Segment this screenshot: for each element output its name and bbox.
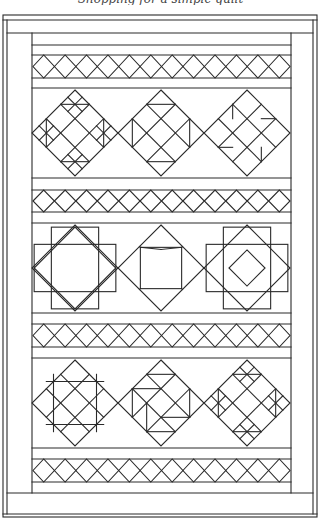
lattice-strip-4 [33,459,290,482]
lattice-diamond [97,324,118,347]
block-seam [34,227,116,309]
block-seam [223,227,270,309]
block-churn-dash [118,90,204,176]
lattice-diamond [269,55,290,78]
block-broken-dishes [118,360,204,446]
lattice-diamond [204,190,225,212]
lattice-diamond [140,190,161,212]
center-diamond [229,250,265,286]
block-outline [118,90,204,176]
lattice-diamond [204,324,225,347]
block-outline [118,225,204,311]
lattice-diamond [76,55,97,78]
block-sawtooth-star [118,225,204,311]
block-outline [204,360,290,446]
block-row-3 [32,360,290,446]
lattice-diamond [76,324,97,347]
block-outline [32,90,118,176]
block-seam [51,227,98,309]
lattice-diamond [204,459,225,482]
block-seam [34,244,116,291]
block-shoofly-variant [32,90,118,176]
lattice-strip-2 [33,190,290,212]
block-seam [206,244,288,291]
lattice-diamond [162,190,183,212]
lattice-diamond [54,190,75,212]
lattice-diamond [162,55,183,78]
lattice-diamond [33,459,54,482]
block-outline [204,90,290,176]
lattice-diamond [247,55,268,78]
block-outline [32,360,118,446]
lattice-diamond [33,324,54,347]
lattice-diamond [269,190,290,212]
star-seam [182,289,183,290]
lattice-diamond [226,459,247,482]
lattice-diamond [162,324,183,347]
lattice-diamond [119,324,140,347]
lattice-diamond [54,55,75,78]
lattice-diamond [76,190,97,212]
lattice-diamond [33,190,54,212]
block-row-2 [32,225,290,311]
lattice-diamond [54,324,75,347]
lattice-diamond [119,55,140,78]
star-center [140,247,181,288]
lattice-diamond [140,324,161,347]
lattice-diamond [76,459,97,482]
lattice-diamond [162,459,183,482]
lattice-diamond [33,55,54,78]
lattice-diamond [183,459,204,482]
lattice-diamond [226,190,247,212]
lattice-diamond [226,324,247,347]
star-seam [140,289,141,290]
block-nine-patch-grid [32,360,118,446]
lattice-diamond [226,55,247,78]
lattice-diamond [247,190,268,212]
lattice-diamond [97,55,118,78]
block-outline [204,225,290,311]
lattice-diamond [54,459,75,482]
quilt-drawing [0,0,321,520]
lattice-diamond [119,459,140,482]
lattice-diamond [269,324,290,347]
lattice-diamond [140,459,161,482]
lattice-diamond [247,459,268,482]
lattice-strip-1 [33,55,290,78]
lattice-diamond [183,190,204,212]
lattice-strip-3 [33,324,290,347]
block-outline [118,360,204,446]
block-pinwheel-star [204,90,290,176]
lattice-diamond [140,55,161,78]
block-double-bars [204,360,290,446]
lattice-diamond [183,324,204,347]
block-outline [32,225,118,311]
lattice-diamond [183,55,204,78]
lattice-diamond [97,190,118,212]
lattice-diamond [204,55,225,78]
quilt-blocks [32,90,290,446]
lattice-diamond [97,459,118,482]
block-square-in-square [32,225,118,311]
block-diamond-in-square [204,225,290,311]
block-row-1 [32,90,290,176]
lattice-diamond [247,324,268,347]
lattice-diamond [269,459,290,482]
lattice-diamond [119,190,140,212]
